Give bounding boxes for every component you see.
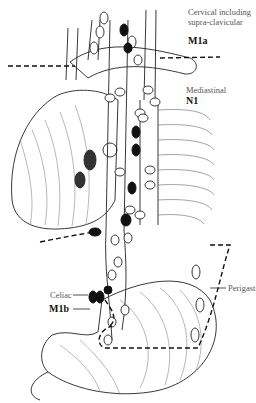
celiac-code: M1b <box>49 304 69 314</box>
celiac-label: Celiac <box>50 290 72 300</box>
esophagus-lymph-node-diagram <box>0 0 256 403</box>
cervical-label-line2: supra-clavicular <box>188 17 251 27</box>
mediastinal-label: Mediastinal <box>186 85 226 95</box>
heart <box>12 90 118 229</box>
cervical-code: M1a <box>188 36 207 46</box>
perigastric-label: Perigastric <box>228 283 256 293</box>
cervical-label: Cervical including supra-clavicular <box>188 7 251 27</box>
cervical-boundary <box>8 57 220 66</box>
cervical-label-line1: Cervical including <box>188 7 251 17</box>
mediastinal-code: N1 <box>186 96 198 106</box>
mediastinal-boundary <box>40 232 95 242</box>
